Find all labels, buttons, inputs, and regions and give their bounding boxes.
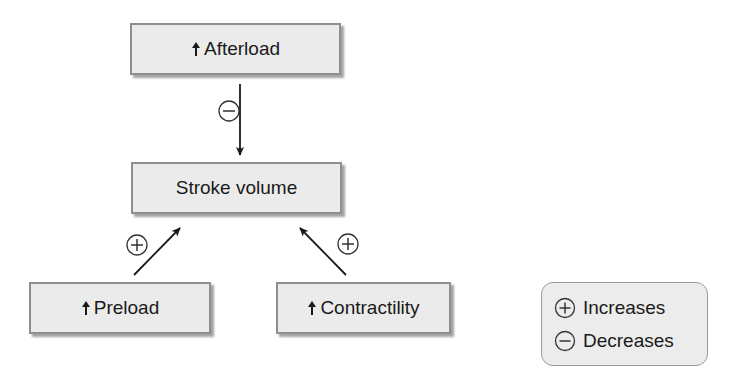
node-label: Stroke volume [176,177,297,199]
legend-item-decreases: Decreases [554,324,707,357]
legend-label: Increases [583,297,665,319]
legend-item-increases: Increases [554,291,707,324]
node-preload: Preload [29,282,211,334]
node-stroke-volume: Stroke volume [131,162,342,214]
minus-icon [554,330,576,352]
legend: Increases Decreases [541,282,708,366]
plus-icon [338,234,358,254]
up-arrow-icon [81,301,91,315]
up-arrow-icon [191,42,201,56]
node-contractility: Contractility [276,282,451,334]
minus-icon [219,101,239,121]
node-label: Afterload [204,38,280,60]
node-label: Preload [94,297,160,319]
edge-preload-to-stroke-volume [134,228,180,275]
node-label: Contractility [320,297,419,319]
plus-icon [127,235,147,255]
node-afterload: Afterload [130,23,341,75]
legend-label: Decreases [583,330,674,352]
edge-contractility-to-stroke-volume [300,228,346,275]
plus-icon [554,297,576,319]
up-arrow-icon [307,301,317,315]
